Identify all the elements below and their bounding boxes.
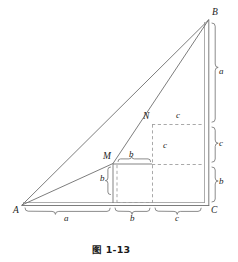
brace-right-c: [212, 127, 218, 162]
segment-ab: [22, 20, 209, 205]
bottom-label-c: c: [175, 214, 179, 223]
brace-m-left-b: [105, 167, 110, 195]
vertex-label-a: A: [13, 206, 19, 216]
right-label-c: c: [219, 139, 223, 148]
interior-label-c-middle: c: [163, 141, 167, 150]
figure-caption: 图 1-13: [92, 242, 130, 256]
right-braces: [212, 23, 218, 202]
bottom-label-a: a: [64, 214, 69, 223]
interior-label-b-left: b: [100, 174, 105, 183]
m-interior-braces: [105, 156, 150, 194]
interior-label-c-top: c: [176, 111, 180, 120]
geometry-figure: A B C M N a b c a c b b b c c 图 1-13: [0, 0, 238, 262]
right-label-a: a: [219, 67, 224, 76]
bottom-label-b: b: [130, 214, 135, 223]
square-at-m: [113, 164, 152, 203]
vertex-label-c: C: [211, 206, 217, 216]
triangle-abc: [22, 20, 209, 206]
right-label-b: b: [219, 177, 224, 186]
interior-label-b-top: b: [129, 150, 134, 159]
geometry-diagram-svg: [0, 0, 238, 262]
brace-right-b: [212, 167, 218, 202]
segment-mb: [113, 20, 209, 164]
brace-right-a: [212, 23, 218, 122]
vertex-label-b: B: [212, 8, 218, 18]
vertex-label-n: N: [143, 112, 149, 122]
brace-m-top-b: [118, 156, 151, 161]
segment-am: [22, 164, 113, 206]
vertex-label-m: M: [103, 152, 111, 162]
